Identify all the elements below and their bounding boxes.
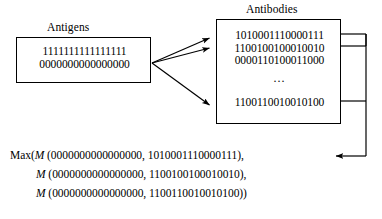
formula-arguments: (0000000000000000, 1010001110000111), <box>44 149 244 161</box>
match-arrow-1 <box>152 38 210 63</box>
antigen-bitstring: 0000000000000000 <box>17 58 152 71</box>
antibody-bitstring: 1010001110000111 <box>217 29 342 42</box>
formula-arguments: (0000000000000000, 1100100100010010), <box>46 168 247 180</box>
formula-function-symbol: M <box>36 168 46 180</box>
formula-line: M (0000000000000000, 1100100100010010), <box>10 165 310 184</box>
formula-function-symbol: M <box>35 149 45 161</box>
antigens-caption: Antigens <box>47 21 89 34</box>
antigens-box: 1111111111111111 0000000000000000 <box>16 37 151 83</box>
antibodies-caption: Antibodies <box>246 3 297 16</box>
antibody-list-ellipsis: ... <box>217 72 342 84</box>
antibodies-box: 1010001110000111 1100100100010010 000011… <box>216 19 341 124</box>
formula-prefix: Max( <box>10 149 35 161</box>
match-arrow-2 <box>152 48 210 63</box>
antibody-bitstring: 1100100100010010 <box>217 42 342 55</box>
antibody-bitstring-last: 1100110010010100 <box>217 96 342 109</box>
figure-canvas: Antigens 1111111111111111 00000000000000… <box>0 0 382 219</box>
match-arrows <box>152 38 210 105</box>
match-arrow-3 <box>152 63 210 105</box>
formula-arguments: (0000000000000000, 1100110010010100)) <box>46 187 247 199</box>
affinity-formula: Max(M (0000000000000000, 101000111000011… <box>10 146 310 203</box>
formula-line: M (0000000000000000, 1100110010010100)) <box>10 184 310 203</box>
formula-line: Max(M (0000000000000000, 101000111000011… <box>10 146 310 165</box>
formula-function-symbol: M <box>36 187 46 199</box>
antigen-bitstring: 1111111111111111 <box>17 45 152 58</box>
antibody-bitstring: 0000110100011000 <box>217 54 342 67</box>
